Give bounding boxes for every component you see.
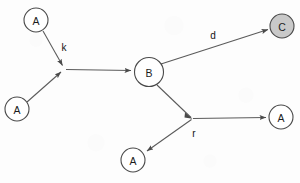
node-a-top-left[interactable]: A	[24, 8, 48, 32]
node-label: A	[13, 104, 20, 116]
edge-label-d: d	[210, 30, 216, 41]
edge-junction-right-to-a-bottom	[147, 120, 192, 152]
node-label: A	[129, 155, 136, 167]
edge-b-to-junction-right	[157, 85, 191, 118]
node-a-bottom-left[interactable]: A	[5, 97, 29, 121]
node-label: B	[145, 67, 152, 79]
node-c-top-right[interactable]: C	[270, 14, 294, 38]
edge-label-k: k	[62, 42, 68, 53]
graph-svg: k d r A A B C A	[0, 0, 300, 183]
node-label: A	[32, 15, 39, 27]
node-a-right[interactable]: A	[269, 105, 293, 129]
edge-labels-layer: k d r	[62, 30, 216, 139]
node-label: A	[277, 112, 284, 124]
nodes-layer: A A B C A A	[5, 8, 294, 172]
edge-label-r: r	[192, 128, 196, 139]
edge-a-bottom-left-to-junction-left	[27, 72, 61, 102]
edge-junction-left-to-b	[66, 70, 131, 71]
diagram-canvas: k d r A A B C A	[0, 0, 300, 183]
edge-a-top-left-to-junction-left	[43, 31, 63, 66]
junction-right-arrowhead-icon	[185, 113, 193, 119]
edge-junction-right-to-a-right	[193, 118, 266, 119]
node-label: C	[278, 21, 286, 33]
node-a-bottom[interactable]: A	[121, 148, 145, 172]
node-b-center[interactable]: B	[135, 58, 164, 87]
